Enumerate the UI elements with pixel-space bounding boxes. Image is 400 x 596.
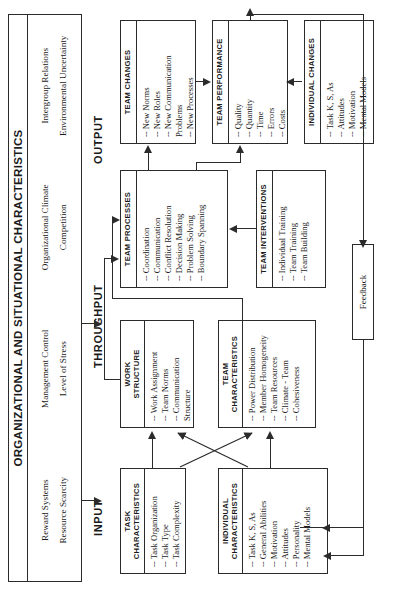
- edge-work-up-stub: [104, 379, 120, 380]
- feedback-branch-task-arrow: [323, 552, 331, 560]
- edge-proc-to-tchg-line: [148, 152, 149, 170]
- node-item: -- Task Type: [160, 474, 171, 567]
- node-title: INDIVIDUAL CHARACTERISTICS: [219, 469, 243, 573]
- node-item: -- Quantity: [244, 26, 255, 137]
- node-items: -- Task K, S, As -- General Abilities --…: [243, 469, 327, 573]
- edge-task-to-work-line: [152, 438, 153, 468]
- feedback-line-right: [363, 14, 364, 244]
- banner-columns: Reward Systems Resource Scarcity Managem…: [27, 15, 81, 581]
- node-title: INDIVIDUAL CHANGES: [305, 21, 321, 143]
- figure-frame: ORGANIZATIONAL AND SITUATIONAL CHARACTER…: [0, 0, 400, 596]
- node-item: Structure: [182, 326, 193, 421]
- node-item: -- Power Distribution: [247, 326, 258, 421]
- edge-proc-to-perf-v: [196, 162, 240, 163]
- edge-individual-to-work: [178, 433, 248, 467]
- edge-teamchar-to-proc-h1: [242, 298, 243, 320]
- node-task-characteristics[interactable]: TASK CHARACTERISTICS -- Task Organizatio…: [120, 468, 186, 574]
- edge-task-to-teamchar: [180, 433, 252, 467]
- node-item: -- Cohesiveness: [291, 326, 302, 421]
- banner-item: Reward Systems: [40, 480, 50, 542]
- node-item: -- Task Organization: [149, 474, 160, 567]
- node-item: -- Team Building: [299, 176, 310, 281]
- node-items: -- Individual Training -- Team Training …: [273, 171, 325, 287]
- banner-to-input-arrow: [94, 497, 102, 505]
- edge-tchg-to-perf-arrow: [203, 78, 211, 86]
- feedback-line-vert-right: [250, 14, 363, 15]
- feedback-arrow-up: [322, 524, 330, 532]
- node-item: -- Motivation: [347, 26, 358, 137]
- node-title: TEAM PERFORMANCE: [213, 21, 229, 143]
- feedback-branch-task-h: [363, 528, 364, 556]
- node-team-characteristics[interactable]: TEAM CHARACTERISTICS -- Power Distributi…: [218, 320, 316, 428]
- organizational-characteristics-banner: ORGANIZATIONAL AND SITUATIONAL CHARACTER…: [8, 14, 82, 582]
- node-item: -- New Roles: [152, 26, 163, 137]
- edge-work-to-proc-line: [104, 258, 105, 380]
- node-item: -- New Processes: [185, 26, 196, 137]
- node-item: -- Problem Solving: [185, 176, 196, 281]
- node-item: -- Coordination: [141, 176, 152, 281]
- banner-column-2: Management Control Level of Stress: [27, 298, 81, 440]
- node-feedback[interactable]: Feedback: [352, 244, 374, 340]
- node-title: TEAM INTERVENTIONS: [257, 171, 273, 287]
- node-item: -- Task K, S, As: [247, 474, 258, 567]
- node-items: -- Coordination -- Communication -- Conf…: [137, 171, 227, 287]
- edge-interv-to-proc-line: [236, 228, 256, 229]
- edge-proc-to-tchg-arrow: [144, 145, 152, 153]
- edge-ichg-to-perf-arrow: [286, 78, 294, 86]
- edge-individual-to-teamchar-line: [270, 438, 271, 468]
- banner-column-3: Organizational Climate Competition: [27, 157, 81, 299]
- diagram-canvas: ORGANIZATIONAL AND SITUATIONAL CHARACTER…: [0, 0, 400, 596]
- banner-column-1: Reward Systems Resource Scarcity: [27, 440, 81, 582]
- node-item: -- Motivation: [269, 474, 280, 567]
- node-items: -- Task Organization -- Task Type -- Tas…: [145, 469, 185, 573]
- node-item: -- Member Homogeneity: [258, 326, 269, 421]
- node-item: -- Attitudes: [336, 26, 347, 137]
- banner-item: Level of Stress: [58, 341, 68, 396]
- node-item: -- General Abilities: [258, 474, 269, 567]
- node-item: -- Conflict Resolution: [163, 176, 174, 281]
- edge-individual-to-teamchar-arrow: [266, 431, 274, 439]
- node-title: TEAM PROCESSES: [121, 171, 137, 287]
- edge-interv-to-proc-arrow: [229, 225, 237, 233]
- node-team-performance[interactable]: TEAM PERFORMANCE -- Quality -- Quantity …: [212, 20, 288, 144]
- feedback-label: Feedback: [358, 275, 368, 309]
- node-item: -- Climate - Team: [280, 326, 291, 421]
- edge-teamchar-to-proc-v: [112, 298, 242, 299]
- node-title: TEAM CHARACTERISTICS: [219, 321, 243, 427]
- edge-task-to-work-arrow: [148, 431, 156, 439]
- node-item: -- Mental Models: [302, 474, 313, 567]
- banner-to-throughput-arrow: [94, 320, 102, 328]
- node-team-changes[interactable]: TEAM CHANGES -- New Norms -- New Roles -…: [120, 20, 196, 144]
- node-title: WORK STRUCTURE: [121, 321, 145, 427]
- edge-teamchar-to-proc-arrow: [112, 216, 120, 224]
- node-item: -- Decision Making: [174, 176, 185, 281]
- feedback-arrow-left: [359, 240, 367, 248]
- node-item: -- Team Resources: [269, 326, 280, 421]
- node-item: -- Task K, S, As: [325, 26, 336, 137]
- node-item: -- Task Complexity: [171, 474, 182, 567]
- banner-title: ORGANIZATIONAL AND SITUATIONAL CHARACTER…: [10, 15, 28, 581]
- node-item: -- Boundary Spanning: [196, 176, 207, 281]
- node-items: -- Quality -- Quantity -- Time -- Errors…: [229, 21, 291, 143]
- banner-item: Environmental Uncertainty: [58, 36, 68, 136]
- node-item: -- Team Training: [288, 176, 299, 281]
- node-item: -- Attitudes: [280, 474, 291, 567]
- banner-item: Management Control: [40, 330, 50, 408]
- banner-column-4: Intergroup Relations Environmental Uncer…: [27, 15, 81, 157]
- node-team-processes[interactable]: TEAM PROCESSES -- Coordination -- Commun…: [120, 170, 228, 288]
- stage-label-output: OUTPUT: [92, 115, 104, 164]
- node-item: -- Work Assignment: [149, 326, 160, 421]
- node-team-interventions[interactable]: TEAM INTERVENTIONS -- Individual Trainin…: [256, 170, 326, 288]
- banner-item: Organizational Climate: [40, 184, 50, 270]
- node-item: -- Errors: [266, 26, 277, 137]
- node-item: -- New Communication: [163, 26, 174, 137]
- node-item: -- Quality: [233, 26, 244, 137]
- banner-item: Competition: [58, 204, 68, 250]
- node-item: -- Personality: [291, 474, 302, 567]
- node-items: -- Work Assignment -- Team Norms -- Comm…: [145, 321, 196, 427]
- node-item: -- New Norms: [141, 26, 152, 137]
- node-item: Problems: [174, 26, 185, 137]
- node-work-structure[interactable]: WORK STRUCTURE -- Work Assignment -- Tea…: [120, 320, 194, 428]
- node-individual-characteristics[interactable]: INDIVIDUAL CHARACTERISTICS -- Task K, S,…: [218, 468, 328, 574]
- edge-teamchar-to-proc-h2: [112, 219, 113, 299]
